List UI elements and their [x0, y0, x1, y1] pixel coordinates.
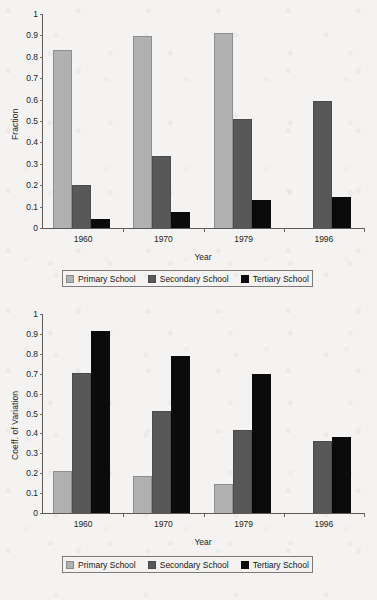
y-tick-label: 0.7 [26, 74, 38, 83]
legend-item-tertiary[interactable]: Tertiary School [241, 274, 309, 284]
y-tick-label: 0.9 [26, 31, 38, 40]
legend-item-secondary[interactable]: Secondary School [148, 274, 229, 284]
y-tick-mark [40, 57, 43, 58]
y-tick-label: 0.3 [26, 160, 38, 169]
y-tick-mark [40, 453, 43, 454]
y-tick-mark [40, 121, 43, 122]
bar-tertiary-1996 [332, 197, 351, 228]
bar-primary-1960 [53, 50, 72, 228]
x-tick-mark [284, 513, 285, 517]
y-tick-mark [40, 394, 43, 395]
bar-primary-1979 [214, 484, 233, 513]
legend-item-primary[interactable]: Primary School [66, 274, 136, 284]
y-tick-label: 0.5 [26, 117, 38, 126]
y-tick-mark [40, 473, 43, 474]
y-tick-mark [40, 35, 43, 36]
x-tick-mark [204, 513, 205, 517]
x-tick-label: 1960 [74, 234, 93, 244]
legend-swatch-tertiary [241, 275, 249, 283]
bar-tertiary-1979 [252, 374, 271, 513]
y-tick-label: 0.2 [26, 181, 38, 190]
legend-item-secondary[interactable]: Secondary School [148, 560, 229, 570]
y-tick-label: 0 [33, 224, 38, 233]
x-axis-title-bottom: Year [42, 537, 364, 547]
x-tick-mark [123, 513, 124, 517]
y-tick-label: 0.8 [26, 350, 38, 359]
bar-tertiary-1960 [91, 331, 110, 513]
legend-item-primary[interactable]: Primary School [66, 560, 136, 570]
legend-top: Primary SchoolSecondary SchoolTertiary S… [62, 270, 313, 287]
x-axis-title-top: Year [42, 252, 364, 262]
y-tick-mark [40, 374, 43, 375]
bar-secondary-1970 [152, 156, 171, 228]
legend-label: Primary School [78, 274, 136, 284]
bar-primary-1979 [214, 33, 233, 228]
plot-area-fraction: 00.10.20.30.40.50.60.70.80.9119601970197… [42, 14, 364, 229]
bar-secondary-1960 [72, 185, 91, 228]
bar-primary-1970 [133, 476, 152, 513]
legend-swatch-secondary [148, 561, 156, 569]
legend-swatch-primary [66, 275, 74, 283]
plot-area-coeff-variation: 00.10.20.30.40.50.60.70.80.9119601970197… [42, 314, 364, 514]
bar-tertiary-1979 [252, 200, 271, 228]
y-tick-mark [40, 334, 43, 335]
legend-label: Primary School [78, 560, 136, 570]
bar-secondary-1970 [152, 411, 171, 513]
bar-tertiary-1960 [91, 219, 110, 228]
legend-label: Tertiary School [253, 274, 309, 284]
y-tick-label: 0.7 [26, 369, 38, 378]
legend-swatch-primary [66, 561, 74, 569]
x-tick-label: 1979 [234, 519, 253, 529]
x-tick-label: 1960 [74, 519, 93, 529]
chart-panel-fraction: Fraction 00.10.20.30.40.50.60.70.80.9119… [0, 0, 377, 300]
y-tick-label: 0.6 [26, 95, 38, 104]
y-tick-label: 0.2 [26, 469, 38, 478]
x-tick-mark [123, 228, 124, 232]
x-tick-mark [284, 228, 285, 232]
bar-primary-1960 [53, 471, 72, 513]
y-tick-mark [40, 228, 43, 229]
bar-secondary-1960 [72, 373, 91, 513]
y-tick-label: 0.4 [26, 138, 38, 147]
y-tick-label: 0.1 [26, 202, 38, 211]
y-tick-mark [40, 433, 43, 434]
chart-panel-coeff-variation: Coeff. of Variation 00.10.20.30.40.50.60… [0, 300, 377, 600]
y-tick-label: 0.9 [26, 330, 38, 339]
bar-tertiary-1970 [171, 356, 190, 513]
bar-secondary-1996 [313, 101, 332, 228]
legend-label: Secondary School [160, 274, 229, 284]
y-tick-mark [40, 14, 43, 15]
y-tick-mark [40, 207, 43, 208]
y-tick-label: 0.5 [26, 409, 38, 418]
x-tick-label: 1996 [314, 234, 333, 244]
bar-secondary-1979 [233, 430, 252, 513]
bar-primary-1970 [133, 36, 152, 228]
y-tick-mark [40, 100, 43, 101]
y-axis-title-top: Fraction [10, 108, 20, 140]
y-tick-mark [40, 513, 43, 514]
legend-item-tertiary[interactable]: Tertiary School [241, 560, 309, 570]
y-tick-mark [40, 164, 43, 165]
legend-bottom: Primary SchoolSecondary SchoolTertiary S… [62, 556, 313, 573]
y-tick-label: 0.3 [26, 449, 38, 458]
x-tick-label: 1979 [234, 234, 253, 244]
x-tick-mark [364, 228, 365, 232]
y-tick-mark [40, 493, 43, 494]
bar-tertiary-1996 [332, 437, 351, 513]
y-tick-label: 0.8 [26, 53, 38, 62]
y-axis-title-bottom: Coeff. of Variation [10, 391, 20, 460]
y-tick-label: 0 [33, 509, 38, 518]
y-tick-mark [40, 185, 43, 186]
x-tick-mark [204, 228, 205, 232]
y-tick-mark [40, 78, 43, 79]
x-tick-label: 1996 [314, 519, 333, 529]
legend-swatch-secondary [148, 275, 156, 283]
legend-swatch-tertiary [241, 561, 249, 569]
y-tick-label: 0.1 [26, 489, 38, 498]
bar-secondary-1996 [313, 441, 332, 513]
x-tick-mark [364, 513, 365, 517]
bar-tertiary-1970 [171, 212, 190, 228]
y-tick-label: 0.4 [26, 429, 38, 438]
y-tick-label: 1 [33, 10, 38, 19]
y-tick-mark [40, 354, 43, 355]
